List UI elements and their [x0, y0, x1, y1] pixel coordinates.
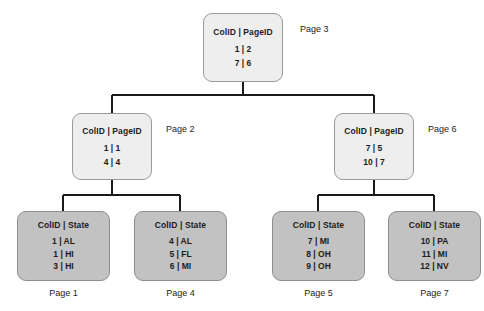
node-page-6-row-0: 7 | 5: [366, 143, 383, 154]
node-page-6[interactable]: ColID | PageID 7 | 5 10 | 7: [334, 113, 414, 180]
node-page-5-row-2: 9 | OH: [306, 261, 331, 272]
node-page-5-row-0: 7 | MI: [308, 236, 329, 247]
node-page-7-header: ColID | State: [409, 220, 460, 231]
label-page-7: Page 7: [388, 288, 481, 298]
node-page-5[interactable]: ColID | State 7 | MI 8 | OH 9 | OH: [272, 211, 365, 281]
node-page-1-header: ColID | State: [38, 220, 89, 231]
node-page-7-row-2: 12 | NV: [420, 261, 448, 272]
node-page-1-row-1: 1 | HI: [53, 249, 73, 260]
node-page-6-row-1: 10 | 7: [363, 157, 384, 168]
label-page-1: Page 1: [17, 288, 110, 298]
node-page-4[interactable]: ColID | State 4 | AL 5 | FL 6 | MI: [134, 211, 227, 281]
node-page-2[interactable]: ColID | PageID 1 | 1 4 | 4: [72, 113, 152, 180]
node-page-3-header: ColID | PageID: [213, 27, 273, 38]
node-page-4-row-2: 6 | MI: [170, 261, 191, 272]
label-page-6: Page 6: [428, 124, 457, 134]
node-page-5-header: ColID | State: [293, 220, 344, 231]
node-page-4-header: ColID | State: [155, 220, 206, 231]
node-page-3[interactable]: ColID | PageID 1 | 2 7 | 6: [203, 13, 283, 82]
node-page-1-row-0: 1 | AL: [52, 236, 75, 247]
node-page-7-row-1: 11 | MI: [422, 249, 448, 260]
label-page-4: Page 4: [134, 288, 227, 298]
node-page-6-header: ColID | PageID: [344, 126, 404, 137]
node-page-7[interactable]: ColID | State 10 | PA 11 | MI 12 | NV: [388, 211, 481, 281]
node-page-7-row-0: 10 | PA: [421, 236, 449, 247]
node-page-2-row-1: 4 | 4: [104, 157, 121, 168]
node-page-4-row-0: 4 | AL: [169, 236, 192, 247]
label-page-5: Page 5: [272, 288, 365, 298]
node-page-3-row-0: 1 | 2: [235, 44, 252, 55]
node-page-3-row-1: 7 | 6: [235, 58, 252, 69]
node-page-2-header: ColID | PageID: [82, 126, 142, 137]
node-page-1[interactable]: ColID | State 1 | AL 1 | HI 3 | HI: [17, 211, 110, 281]
node-page-1-row-2: 3 | HI: [53, 261, 73, 272]
node-page-2-row-0: 1 | 1: [104, 143, 121, 154]
label-page-3: Page 3: [300, 24, 329, 34]
label-page-2: Page 2: [166, 124, 195, 134]
node-page-4-row-1: 5 | FL: [169, 249, 191, 260]
node-page-5-row-1: 8 | OH: [306, 249, 331, 260]
btree-diagram: ColID | PageID 1 | 2 7 | 6 Page 3 ColID …: [0, 0, 484, 311]
